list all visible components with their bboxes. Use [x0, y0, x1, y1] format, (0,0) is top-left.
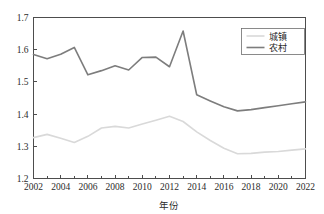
x-tick-label: 2020: [269, 182, 288, 192]
legend-label-城镇: 城镇: [269, 31, 287, 42]
chart-figure: 1.21.31.41.51.61.7 200220042006200820102…: [0, 0, 324, 214]
x-tick-label: 2016: [214, 182, 233, 192]
x-tick-label: 2004: [51, 182, 70, 192]
chart-legend: 城镇农村: [242, 29, 305, 55]
y-tick-label: 1.3: [17, 142, 29, 152]
line-chart: 1.21.31.41.51.61.7 200220042006200820102…: [0, 0, 324, 214]
legend-label-农村: 农村: [269, 42, 287, 53]
y-tick-label: 1.5: [17, 77, 29, 87]
y-tick-label: 1.7: [17, 13, 29, 23]
x-tick-label: 2018: [242, 182, 261, 192]
series-line-城镇: [34, 116, 306, 153]
x-tick-label: 2006: [78, 182, 97, 192]
x-tick-label: 2012: [160, 182, 179, 192]
x-tick-label: 2002: [24, 182, 43, 192]
y-tick-label: 1.6: [17, 45, 29, 55]
y-tick-label: 1.4: [17, 110, 29, 120]
x-axis-title: 年份: [159, 200, 179, 211]
x-tick-label: 2008: [106, 182, 125, 192]
x-tick-label: 2022: [296, 182, 315, 192]
x-tick-label: 2014: [187, 182, 206, 192]
x-axis-ticks: 2002200420062008201020122014201620182020…: [24, 175, 315, 192]
x-tick-label: 2010: [133, 182, 152, 192]
